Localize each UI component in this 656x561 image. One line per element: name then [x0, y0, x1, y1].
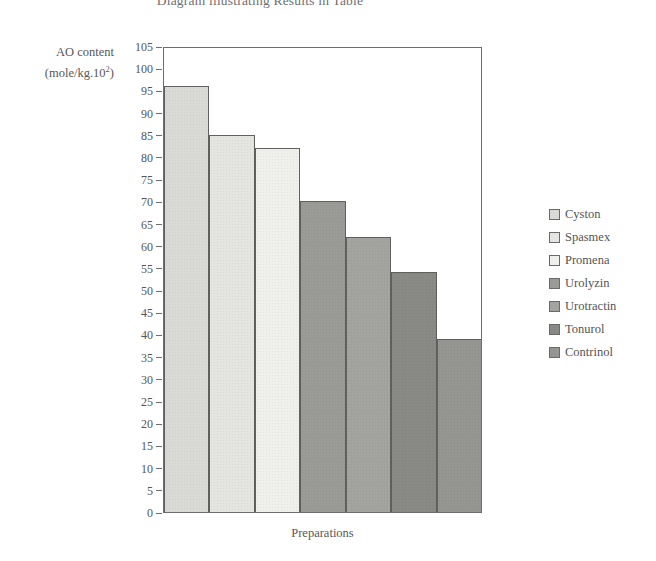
legend-item-label: Cyston [565, 207, 600, 222]
y-axis-tick-mark [156, 490, 162, 491]
y-axis-tick-label: 40 [141, 328, 156, 342]
y-axis-tick: 85 [141, 129, 163, 143]
y-axis-tick-label: 50 [141, 284, 156, 298]
y-axis-tick-layer: 1051009590858075706560555045403530252015… [0, 0, 163, 561]
y-axis-tick-mark [156, 135, 162, 136]
y-axis-tick: 55 [141, 262, 163, 276]
legend-swatch-icon [549, 255, 560, 266]
legend-item[interactable]: Urotractin [549, 295, 656, 318]
y-axis-tick: 50 [141, 284, 163, 298]
y-axis-tick-mark [156, 47, 162, 48]
bar[interactable] [437, 339, 481, 512]
y-axis-tick: 60 [141, 240, 163, 254]
legend-item-label: Contrinol [565, 345, 613, 360]
legend-item[interactable]: Promena [549, 249, 656, 272]
legend-item-label: Urotractin [565, 299, 616, 314]
x-axis-title: Preparations [163, 526, 482, 541]
y-axis-tick-label: 35 [141, 351, 156, 365]
y-axis-tick: 95 [141, 84, 163, 98]
y-axis-tick: 65 [141, 218, 163, 232]
y-axis-tick: 75 [141, 173, 163, 187]
legend-swatch-icon [549, 278, 560, 289]
y-axis-tick-mark [156, 91, 162, 92]
y-axis-tick-mark [156, 246, 162, 247]
legend-swatch-icon [549, 301, 560, 312]
y-axis-tick: 35 [141, 351, 163, 365]
y-axis-tick: 100 [135, 62, 163, 76]
y-axis-tick-label: 15 [141, 439, 156, 453]
plot-area [163, 47, 482, 513]
y-axis-tick-mark [156, 69, 162, 70]
legend-item-label: Urolyzin [565, 276, 609, 291]
legend-item-label: Spasmex [565, 230, 610, 245]
y-axis-tick: 90 [141, 107, 163, 121]
y-axis-tick-mark [156, 268, 162, 269]
y-axis-tick-label: 100 [135, 62, 156, 76]
legend-item[interactable]: Tonurol [549, 318, 656, 341]
y-axis-tick: 5 [147, 484, 163, 498]
y-axis-tick-label: 85 [141, 129, 156, 143]
legend-swatch-icon [549, 347, 560, 358]
legend-item[interactable]: Urolyzin [549, 272, 656, 295]
y-axis-tick-mark [156, 313, 162, 314]
y-axis-tick-label: 80 [141, 151, 156, 165]
y-axis-title: AO content (mole/kg.102) [14, 44, 114, 82]
legend-swatch-icon [549, 324, 560, 335]
y-axis-tick-mark [156, 402, 162, 403]
y-axis-tick-label: 90 [141, 107, 156, 121]
y-axis-tick-label: 105 [135, 40, 156, 54]
y-axis-tick-label: 70 [141, 195, 156, 209]
y-axis-tick-mark [156, 224, 162, 225]
y-axis-title-units: (mole/kg.102) [14, 61, 114, 82]
bar[interactable] [255, 148, 300, 512]
y-axis-tick-mark [156, 113, 162, 114]
bar[interactable] [346, 237, 391, 512]
y-axis-tick: 25 [141, 395, 163, 409]
y-axis-tick-label: 30 [141, 373, 156, 387]
bar[interactable] [209, 135, 254, 512]
y-axis-tick-label: 60 [141, 240, 156, 254]
y-axis-tick-label: 25 [141, 395, 156, 409]
chart-title: Diagram illustrating Results in Table [0, 0, 520, 9]
y-axis-tick-mark [156, 202, 162, 203]
bar[interactable] [300, 201, 345, 512]
y-axis-tick-label: 0 [147, 506, 156, 520]
legend-item[interactable]: Contrinol [549, 341, 656, 364]
y-axis-tick-mark [156, 379, 162, 380]
y-axis-tick: 10 [141, 462, 163, 476]
y-axis-tick-label: 65 [141, 218, 156, 232]
y-axis-tick: 45 [141, 306, 163, 320]
y-axis-tick-label: 20 [141, 417, 156, 431]
y-axis-tick-label: 55 [141, 262, 156, 276]
bar[interactable] [391, 272, 436, 512]
legend-item-label: Promena [565, 253, 609, 268]
y-axis-tick-mark [156, 180, 162, 181]
y-axis-tick-label: 5 [147, 484, 156, 498]
y-axis-tick: 30 [141, 373, 163, 387]
y-axis-tick-label: 75 [141, 173, 156, 187]
legend-swatch-icon [549, 232, 560, 243]
y-axis-tick-mark [156, 468, 162, 469]
y-axis-tick-mark [156, 424, 162, 425]
y-axis-tick-mark [156, 335, 162, 336]
y-axis-tick-mark [156, 513, 162, 514]
legend-swatch-icon [549, 209, 560, 220]
chart-legend: CystonSpasmexPromenaUrolyzinUrotractinTo… [549, 203, 656, 364]
legend-item[interactable]: Spasmex [549, 226, 656, 249]
y-axis-tick-label: 10 [141, 462, 156, 476]
y-axis-tick-mark [156, 157, 162, 158]
y-axis-tick: 0 [147, 506, 163, 520]
legend-item-label: Tonurol [565, 322, 604, 337]
y-axis-tick: 15 [141, 439, 163, 453]
bar[interactable] [164, 86, 209, 512]
y-axis-tick-mark [156, 357, 162, 358]
y-axis-tick-mark [156, 291, 162, 292]
y-axis-unit-suffix: ) [110, 66, 114, 80]
y-axis-title-line1: AO content [14, 44, 114, 61]
y-axis-tick: 40 [141, 328, 163, 342]
legend-item[interactable]: Cyston [549, 203, 656, 226]
y-axis-tick: 80 [141, 151, 163, 165]
bar-series [164, 48, 481, 512]
y-axis-tick: 105 [135, 40, 163, 54]
y-axis-tick: 20 [141, 417, 163, 431]
